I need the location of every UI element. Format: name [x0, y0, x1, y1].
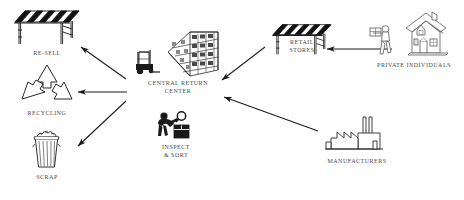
- node-label-retail: RETAIL STORES: [282, 38, 322, 54]
- node-inspect[interactable]: INSPECT & SORT: [138, 110, 214, 159]
- node-manufacturers[interactable]: MANUFACTURERS: [312, 116, 402, 165]
- market-stall-awning-icon: [9, 8, 85, 48]
- arrow-crc-to-scrap: [78, 101, 126, 146]
- node-label-recycling: RECYCLING: [28, 109, 67, 117]
- factory-icon: [325, 116, 389, 156]
- reverse-logistics-diagram: RE-SELL RECYCLING: [0, 0, 464, 200]
- node-label-scrap: SCRAP: [36, 173, 58, 181]
- forklift-warehouse-rack-icon: [128, 30, 228, 78]
- node-label-manufacturers: MANUFACTURERS: [327, 157, 386, 165]
- person-carrying-box-house-icon: [368, 8, 460, 60]
- trash-can-icon: [25, 126, 69, 172]
- node-label-private: PRIVATE INDIVIDUALS: [377, 61, 451, 69]
- node-resell[interactable]: RE-SELL: [6, 8, 88, 57]
- person-inspecting-box-icon: [154, 110, 198, 142]
- node-private[interactable]: PRIVATE INDIVIDUALS: [368, 8, 460, 69]
- node-scrap[interactable]: SCRAP: [14, 126, 80, 181]
- node-label-resell: RE-SELL: [33, 49, 61, 57]
- node-crc[interactable]: CENTRAL RETURN CENTER: [128, 30, 228, 95]
- node-retail[interactable]: RETAIL STORES: [260, 22, 344, 58]
- recycling-symbol-icon: [18, 62, 76, 108]
- arrow-retail-to-crc: [222, 47, 265, 80]
- node-recycling[interactable]: RECYCLING: [10, 62, 84, 117]
- node-label-inspect: INSPECT & SORT: [162, 143, 190, 159]
- node-label-crc: CENTRAL RETURN CENTER: [148, 79, 208, 95]
- arrow-manufacturers-to-crc: [224, 97, 318, 131]
